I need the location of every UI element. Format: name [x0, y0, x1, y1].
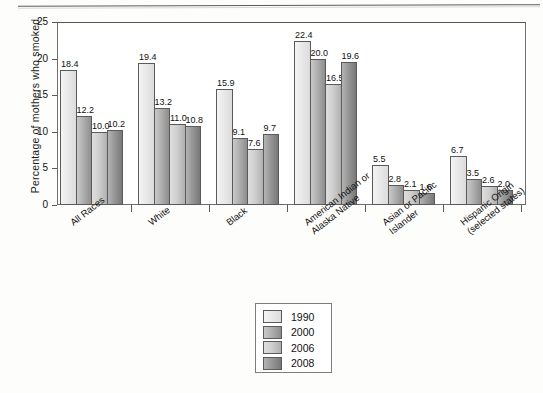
y-tick	[52, 205, 57, 206]
x-tick	[443, 205, 444, 212]
legend-label: 2000	[291, 326, 314, 338]
plot-area	[57, 22, 526, 205]
y-tick-label: 20	[20, 53, 48, 64]
legend-label: 1990	[291, 311, 314, 323]
x-tick	[209, 205, 210, 212]
x-category-line: Black	[224, 205, 249, 228]
legend-item: 2000	[263, 326, 314, 339]
legend-label: 2008	[291, 357, 314, 369]
legend-item: 2008	[263, 357, 314, 370]
x-category-line: White	[146, 204, 172, 228]
y-axis-title: Percentage of mothers who smoked	[29, 6, 41, 206]
legend-swatch	[263, 310, 282, 323]
y-tick-label: 0	[20, 199, 48, 210]
y-tick-label: 10	[20, 126, 48, 137]
legend-label: 2006	[291, 342, 314, 354]
x-tick	[287, 205, 288, 212]
legend: 1990200020062008	[255, 303, 332, 373]
y-tick-label: 15	[20, 89, 48, 100]
y-tick-label: 5	[20, 162, 48, 173]
x-tick	[365, 205, 366, 212]
chart-figure: Percentage of mothers who smoked 0510152…	[0, 0, 543, 393]
y-tick-label: 25	[20, 16, 48, 27]
legend-swatch	[263, 357, 282, 370]
legend-item: 1990	[263, 310, 314, 323]
x-category-label: White	[146, 204, 172, 228]
legend-item: 2006	[263, 341, 314, 354]
x-category-label: Black	[224, 205, 249, 228]
legend-swatch	[263, 341, 282, 354]
x-tick	[131, 205, 132, 212]
x-tick	[521, 205, 522, 212]
legend-swatch	[263, 326, 282, 339]
